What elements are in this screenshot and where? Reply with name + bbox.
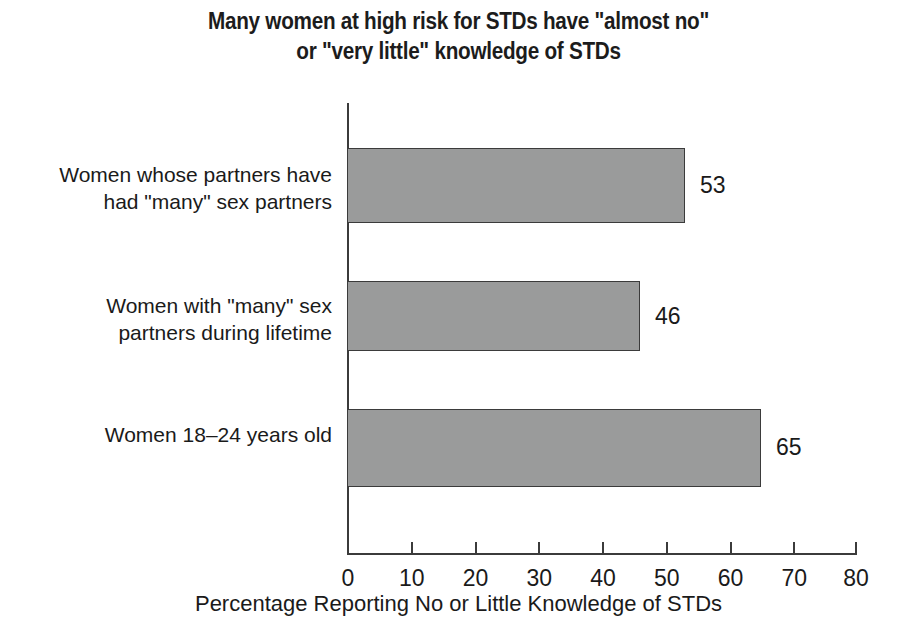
chart-title: Many women at high risk for STDs have "a…	[46, 6, 871, 66]
chart-title-line-2: or "very little" knowledge of STDs	[46, 36, 871, 66]
x-tick-label-0: 0	[318, 565, 378, 591]
bar-value-0: 53	[700, 174, 726, 197]
x-tick-label-40: 40	[573, 565, 633, 591]
bar-value-2: 65	[776, 436, 802, 459]
x-tick-70	[793, 542, 795, 553]
x-tick-40	[602, 542, 604, 553]
x-tick-label-80: 80	[826, 565, 886, 591]
category-label-2-line-1: Women 18–24 years old	[12, 421, 332, 448]
x-tick-60	[730, 542, 732, 553]
bar-value-1: 46	[655, 305, 681, 328]
category-label-0-line-1: Women whose partners have	[12, 161, 332, 188]
x-tick-0	[347, 542, 349, 553]
x-tick-80	[855, 542, 857, 553]
x-tick-label-30: 30	[509, 565, 569, 591]
category-label-1-line-1: Women with "many" sex	[12, 292, 332, 319]
category-label-0-line-2: had "many" sex partners	[12, 188, 332, 215]
x-tick-10	[411, 542, 413, 553]
x-axis-title: Percentage Reporting No or Little Knowle…	[0, 590, 917, 618]
x-tick-label-10: 10	[382, 565, 442, 591]
x-tick-label-70: 70	[764, 565, 824, 591]
x-tick-50	[666, 542, 668, 553]
x-tick-30	[538, 542, 540, 553]
x-tick-label-50: 50	[637, 565, 697, 591]
bar-0	[347, 148, 685, 223]
x-tick-20	[475, 542, 477, 553]
plot-area: 0 10 20 30 40 50 60 70 80 53 46 65	[347, 103, 857, 555]
category-label-0: Women whose partners have had "many" sex…	[12, 161, 332, 215]
category-label-1: Women with "many" sex partners during li…	[12, 292, 332, 346]
category-axis-labels: Women whose partners have had "many" sex…	[10, 103, 332, 555]
x-tick-label-20: 20	[446, 565, 506, 591]
bar-2	[347, 409, 761, 487]
bar-1	[347, 281, 640, 351]
category-label-1-line-2: partners during lifetime	[12, 319, 332, 346]
x-tick-label-60: 60	[701, 565, 761, 591]
category-label-2: Women 18–24 years old	[12, 421, 332, 448]
chart-title-line-1: Many women at high risk for STDs have "a…	[46, 6, 871, 36]
x-axis-line	[347, 553, 857, 555]
